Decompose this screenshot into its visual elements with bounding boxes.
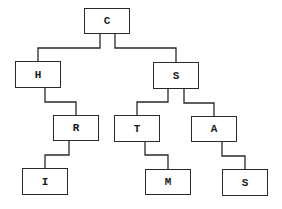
edge-s-t bbox=[137, 89, 168, 115]
node-label: H bbox=[35, 69, 42, 81]
node-s-lower: S bbox=[222, 169, 268, 196]
edge-c-s bbox=[115, 34, 176, 62]
node-label: I bbox=[42, 176, 49, 188]
node-label: S bbox=[173, 70, 180, 82]
edge-r-i bbox=[45, 141, 69, 168]
node-label: R bbox=[73, 122, 80, 134]
tree-diagram: C H S R T A I M S bbox=[0, 0, 282, 209]
node-label: T bbox=[134, 123, 141, 135]
edge-a-s bbox=[222, 142, 245, 169]
node-m: M bbox=[145, 169, 191, 195]
node-c: C bbox=[84, 8, 130, 34]
node-label: M bbox=[165, 176, 172, 188]
node-s-upper: S bbox=[153, 62, 199, 89]
node-label: S bbox=[242, 177, 249, 189]
edge-h-r bbox=[45, 88, 76, 115]
node-h: H bbox=[15, 61, 61, 88]
edge-c-h bbox=[38, 34, 100, 61]
node-r: R bbox=[53, 115, 99, 141]
edge-s-a bbox=[184, 89, 214, 116]
node-t: T bbox=[114, 115, 160, 142]
node-a: A bbox=[191, 116, 237, 142]
node-label: A bbox=[211, 123, 218, 135]
edge-t-m bbox=[145, 142, 168, 169]
node-label: C bbox=[104, 15, 111, 27]
node-i: I bbox=[22, 168, 68, 195]
